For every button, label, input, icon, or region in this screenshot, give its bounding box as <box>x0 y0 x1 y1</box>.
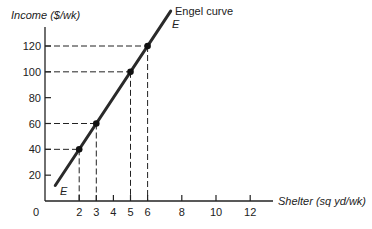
y-tick-label: 80 <box>29 92 41 104</box>
x-tick-label: 8 <box>179 206 185 218</box>
x-ticks: 2345681012 <box>76 195 256 218</box>
engel-curve <box>55 11 170 185</box>
curve-end-label-top: E <box>172 18 180 30</box>
y-tick-label: 20 <box>29 169 41 181</box>
y-axis-label: Income ($/wk) <box>11 9 80 21</box>
y-tick-label: 120 <box>23 40 41 52</box>
engel-curve-chart: 20406080100120 2345681012 Income ($/wk) … <box>0 0 372 229</box>
x-tick-label: 5 <box>127 206 133 218</box>
data-point <box>76 146 83 153</box>
y-tick-label: 100 <box>23 66 41 78</box>
x-tick-label: 12 <box>244 206 256 218</box>
data-point <box>93 120 100 127</box>
x-axis-label: Shelter (sq yd/wk) <box>278 195 366 207</box>
origin-label: 0 <box>33 206 39 218</box>
curve-end-label-bottom: E <box>60 185 68 197</box>
curve-name-label: Engel curve <box>175 5 233 17</box>
x-tick-label: 10 <box>210 206 222 218</box>
x-tick-label: 3 <box>93 206 99 218</box>
x-tick-label: 4 <box>110 206 116 218</box>
y-tick-label: 40 <box>29 143 41 155</box>
x-tick-label: 2 <box>76 206 82 218</box>
data-point <box>144 43 151 50</box>
engel-curve-line <box>55 11 170 185</box>
y-ticks: 20406080100120 <box>23 40 51 181</box>
y-tick-label: 60 <box>29 118 41 130</box>
x-tick-label: 6 <box>145 206 151 218</box>
data-point <box>127 69 134 76</box>
